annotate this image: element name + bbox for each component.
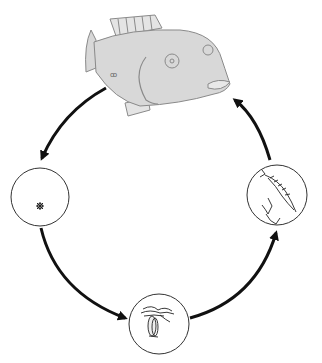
- arrow-juvenile-to-adult: [235, 100, 270, 160]
- egg-icon: [36, 202, 44, 210]
- egg-stage: [11, 168, 69, 226]
- juvenile-stage: [247, 165, 307, 225]
- arrow-larva-to-juvenile: [190, 233, 276, 318]
- pectoral-fin-mark: ꝏ: [110, 71, 117, 78]
- adult-fish-illustration: ꝏ: [86, 15, 230, 116]
- larva-stage: [129, 294, 189, 354]
- life-cycle-diagram: ꝏ: [0, 0, 322, 363]
- arrow-adult-to-egg: [42, 88, 106, 158]
- arrow-egg-to-larva: [41, 228, 125, 318]
